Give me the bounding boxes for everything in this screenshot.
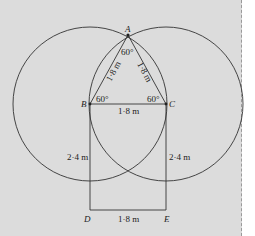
label-length-bd: 2·4 m: [67, 152, 88, 162]
label-point-a: A: [124, 24, 131, 34]
label-length-de: 1·8 m: [118, 214, 139, 224]
geometry-diagram: A B C D E 60° 60° 60° 1·8 m 1·8 m 1·8 m …: [0, 0, 255, 236]
label-angle-c: 60°: [147, 94, 160, 104]
label-angle-a: 60°: [121, 47, 134, 57]
label-point-d: D: [83, 214, 91, 224]
label-length-bc: 1·8 m: [118, 106, 139, 116]
point-c-dot: [165, 103, 168, 106]
label-length-ab: 1·8 m: [104, 59, 123, 82]
label-length-ac: 1·8 m: [135, 60, 154, 83]
label-length-ce: 2·4 m: [169, 152, 190, 162]
label-point-c: C: [169, 99, 176, 109]
label-point-b: B: [81, 99, 87, 109]
point-b-dot: [89, 103, 92, 106]
label-point-e: E: [163, 214, 170, 224]
label-angle-b: 60°: [96, 94, 109, 104]
